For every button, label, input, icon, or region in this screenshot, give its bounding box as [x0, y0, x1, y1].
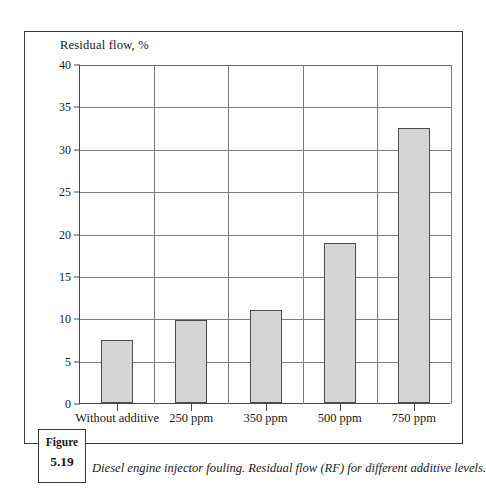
- gridline-horizontal: [80, 235, 451, 236]
- x-tick-mark: [117, 404, 118, 411]
- bar: [324, 243, 356, 403]
- plot-area: 0510152025303540 Without additive250 ppm…: [79, 65, 450, 404]
- y-tick-mark: [74, 149, 80, 150]
- figure-tag-word: Figure: [39, 436, 85, 449]
- bar: [101, 340, 133, 403]
- x-tick-mark: [414, 404, 415, 411]
- x-tick-mark: [266, 404, 267, 411]
- figure-caption: Diesel engine injector fouling. Residual…: [92, 461, 472, 476]
- y-tick-mark: [74, 361, 80, 362]
- gridline-vertical: [303, 65, 304, 404]
- gridline-horizontal: [80, 150, 451, 151]
- y-tick-mark: [74, 234, 80, 235]
- y-axis-title: Residual flow, %: [60, 38, 149, 53]
- gridline-horizontal: [80, 192, 451, 193]
- y-tick-mark: [74, 65, 80, 66]
- y-tick-mark: [74, 404, 80, 405]
- gridline-vertical: [154, 65, 155, 404]
- x-tick-label: 250 ppm: [169, 411, 213, 426]
- y-tick-label: 20: [59, 227, 71, 242]
- y-tick-mark: [74, 107, 80, 108]
- y-tick-mark: [74, 319, 80, 320]
- x-tick-mark: [340, 404, 341, 411]
- y-tick-mark: [74, 276, 80, 277]
- gridline-vertical: [377, 65, 378, 404]
- y-tick-label: 40: [59, 58, 71, 73]
- x-tick-label: Without additive: [75, 411, 159, 426]
- y-tick-label: 5: [65, 354, 71, 369]
- gridline-vertical: [451, 65, 452, 404]
- figure-tag-number: 5.19: [39, 454, 85, 470]
- gridline-horizontal: [80, 107, 451, 108]
- x-tick-mark: [191, 404, 192, 411]
- bar: [398, 128, 430, 403]
- y-tick-label: 35: [59, 100, 71, 115]
- bar: [250, 310, 282, 403]
- gridline-vertical: [228, 65, 229, 404]
- y-tick-label: 10: [59, 312, 71, 327]
- gridline-horizontal: [80, 277, 451, 278]
- x-tick-label: 750 ppm: [392, 411, 436, 426]
- figure-number-box: Figure 5.19: [38, 429, 86, 483]
- x-tick-label: 500 ppm: [318, 411, 362, 426]
- y-tick-label: 25: [59, 185, 71, 200]
- y-tick-label: 30: [59, 142, 71, 157]
- y-tick-mark: [74, 192, 80, 193]
- x-tick-label: 350 ppm: [243, 411, 287, 426]
- y-tick-label: 0: [65, 397, 71, 412]
- y-tick-label: 15: [59, 269, 71, 284]
- bar: [175, 320, 207, 403]
- gridline-horizontal: [80, 65, 451, 66]
